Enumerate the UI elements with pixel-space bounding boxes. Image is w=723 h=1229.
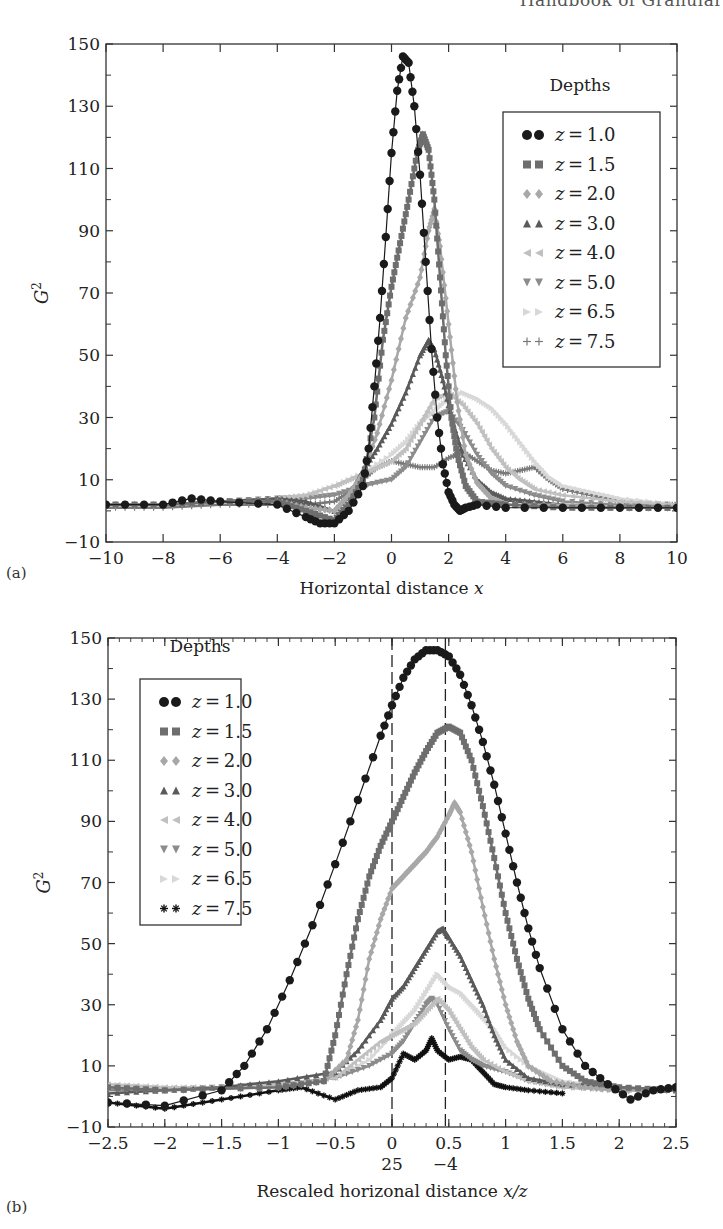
y-tick-label: 150 xyxy=(70,628,102,648)
series-4-0 xyxy=(103,390,680,508)
y-tick-label: 70 xyxy=(78,283,100,303)
legend-label: z = 3.0 xyxy=(554,213,615,234)
legend-label: z = 2.0 xyxy=(191,750,252,771)
x-tick-label: −8 xyxy=(151,548,176,568)
legend-label: z = 5.0 xyxy=(554,272,615,293)
legend-title: Depths xyxy=(549,75,610,95)
y-tick-label: 90 xyxy=(80,811,102,831)
x-tick-label: 4 xyxy=(500,548,511,568)
x-tick-label: 2.5 xyxy=(662,1133,689,1153)
y-tick-label: 30 xyxy=(78,408,100,428)
legend-label: z = 1.0 xyxy=(191,691,252,712)
x-tick-label: 0 xyxy=(386,548,397,568)
x-tick-label: 10 xyxy=(666,548,688,568)
x-tick-label: 8 xyxy=(614,548,625,568)
legend-label: z = 1.0 xyxy=(554,124,615,145)
legend-label: z = 7.5 xyxy=(191,898,252,919)
chart-panel-a: −101030507090110130150−10−8−6−4−20246810… xyxy=(0,0,723,600)
x-axis-label: Horizontal distance x xyxy=(299,578,484,598)
x-axis-label: Rescaled horizonal distance x/z xyxy=(256,1181,528,1201)
y-tick-label: 50 xyxy=(80,934,102,954)
y-axis-label: G2 xyxy=(32,871,54,893)
svg-text:G2: G2 xyxy=(30,282,52,304)
x-tick-label: −2.5 xyxy=(87,1133,128,1153)
legend-title: Depths xyxy=(169,636,230,656)
y-tick-label: 110 xyxy=(70,750,102,770)
chart-a-canvas: −101030507090110130150−10−8−6−4−20246810… xyxy=(0,0,723,600)
chart-b-canvas: −101030507090110130150−2.5−2−1.5−1−0.500… xyxy=(0,600,723,1229)
x-tick-label: 2 xyxy=(443,548,454,568)
legend-label: z = 4.0 xyxy=(191,809,252,830)
legend-label: z = 3.0 xyxy=(191,780,252,801)
x-tick-label: −0.5 xyxy=(315,1133,356,1153)
x-tick-label: −4 xyxy=(265,548,290,568)
x-tick-label: −1 xyxy=(266,1133,291,1153)
y-axis-label: G2 xyxy=(30,282,52,304)
x-tick-label: 1 xyxy=(500,1133,511,1153)
legend-label: z = 5.0 xyxy=(191,839,252,860)
x-tick-label: 2 xyxy=(614,1133,625,1153)
x-tick-label: −1.5 xyxy=(201,1133,242,1153)
legend-box xyxy=(503,112,660,367)
svg-text:G2: G2 xyxy=(32,871,54,893)
legend-label: z = 6.5 xyxy=(554,301,615,322)
x-tick-label: 0.5 xyxy=(435,1133,462,1153)
y-tick-label: 10 xyxy=(78,470,100,490)
panel-label-b: (b) xyxy=(6,1198,27,1216)
series-6-5 xyxy=(103,390,680,508)
y-tick-label: 50 xyxy=(78,345,100,365)
x-tick-label: 6 xyxy=(557,548,568,568)
x-tick-label: −6 xyxy=(208,548,233,568)
x-tick-label: 0 xyxy=(387,1133,398,1153)
x-tick-label: −2 xyxy=(152,1133,177,1153)
extra-x-tick-label: 25 xyxy=(381,1154,403,1174)
y-tick-label: 10 xyxy=(80,1056,102,1076)
x-tick-label: −2 xyxy=(322,548,347,568)
legend-label: z = 7.5 xyxy=(554,331,615,352)
extra-x-tick-label: −4 xyxy=(433,1154,458,1174)
legend-label: z = 1.5 xyxy=(191,721,252,742)
chart-panel-b: −101030507090110130150−2.5−2−1.5−1−0.500… xyxy=(0,600,723,1229)
x-tick-label: 1.5 xyxy=(549,1133,576,1153)
y-tick-label: 30 xyxy=(80,995,102,1015)
legend: Depthsz = 1.0z = 1.5z = 2.0z = 3.0z = 4.… xyxy=(140,636,252,925)
x-tick-label: −10 xyxy=(88,548,124,568)
y-tick-label: 150 xyxy=(68,34,100,54)
legend-label: z = 2.0 xyxy=(554,183,615,204)
y-tick-label: 110 xyxy=(68,159,100,179)
y-tick-label: 130 xyxy=(68,96,100,116)
legend-label: z = 1.5 xyxy=(554,154,615,175)
legend-label: z = 4.0 xyxy=(554,242,615,263)
panel-label-a: (a) xyxy=(6,564,27,582)
legend-label: z = 6.5 xyxy=(191,868,252,889)
y-tick-label: 70 xyxy=(80,873,102,893)
y-tick-label: 90 xyxy=(78,221,100,241)
legend: Depthsz = 1.0z = 1.5z = 2.0z = 3.0z = 4.… xyxy=(503,75,660,367)
y-tick-label: 130 xyxy=(70,689,102,709)
